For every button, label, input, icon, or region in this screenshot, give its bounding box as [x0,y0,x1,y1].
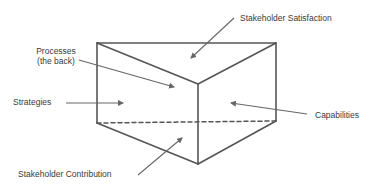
prism-drawing [0,0,377,187]
contribution-arrow-icon [138,138,182,175]
top-left-diagonal-edge [97,43,198,84]
bottom-right-diagonal-edge [198,121,276,164]
capabilities-arrow-icon [231,103,307,114]
stakeholder-contribution-label: Stakeholder Contribution [18,169,112,179]
processes-arrow-icon [79,60,174,87]
strategies-label: Strategies [13,97,51,107]
hidden-back-bottom-edge [97,121,276,123]
processes-label: Processes (the back) [25,46,87,66]
capabilities-label: Capabilities [315,110,359,120]
processes-label-line1: Processes [25,46,87,56]
bottom-left-diagonal-edge [97,123,198,164]
processes-label-line2: (the back) [25,56,87,66]
pointer-arrows [66,18,307,175]
prism-edges [97,43,276,164]
performance-prism-diagram: Stakeholder Satisfaction Processes (the … [0,0,377,187]
top-right-diagonal-edge [198,43,276,84]
satisfaction-arrow-icon [191,18,234,58]
stakeholder-satisfaction-label: Stakeholder Satisfaction [240,13,332,23]
